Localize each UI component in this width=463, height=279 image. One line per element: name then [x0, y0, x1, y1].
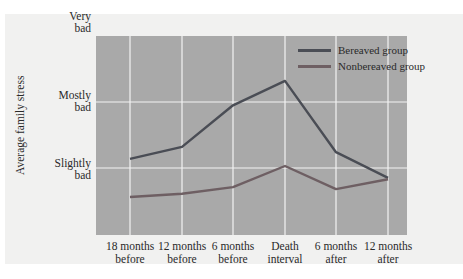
legend-item-nonbereaved: Nonbereaved group: [298, 60, 425, 72]
y-tick-line: bad: [58, 101, 91, 113]
y-axis-title: Average family stress: [14, 76, 26, 175]
y-tick-line: Very: [69, 10, 91, 22]
y-tick-line: bad: [55, 169, 91, 181]
nonbereaved-line: [130, 166, 388, 197]
x-tick-line: after: [353, 253, 423, 266]
cropped-caption: [0, 270, 463, 279]
y-tick-very-bad: Very bad: [69, 10, 91, 34]
y-tick-mostly-bad: Mostly bad: [58, 89, 91, 113]
legend-label: Bereaved group: [338, 44, 408, 56]
x-tick-label: 12 months after: [353, 240, 423, 266]
legend-item-bereaved: Bereaved group: [298, 44, 408, 56]
y-tick-line: Slightly: [55, 157, 91, 169]
y-tick-line: bad: [69, 22, 91, 34]
legend-line-icon: [298, 49, 331, 52]
legend-line-icon: [298, 65, 331, 68]
legend-label: Nonbereaved group: [338, 60, 425, 72]
x-tick-line: 12 months: [353, 240, 423, 253]
y-tick-line: Mostly: [58, 89, 91, 101]
chart-lines: [0, 0, 463, 279]
bereaved-line: [130, 81, 388, 178]
y-tick-slightly-bad: Slightly bad: [55, 157, 91, 181]
